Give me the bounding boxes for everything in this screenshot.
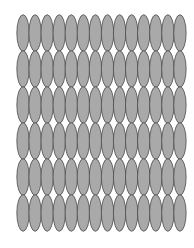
ellipse-shape [113, 123, 125, 160]
ellipse-shape [77, 195, 89, 232]
ellipse-shape [113, 195, 125, 232]
ellipse-shape [174, 195, 186, 232]
ellipse-shape [65, 195, 77, 232]
ellipse-shape [162, 87, 174, 124]
ellipse-shape [65, 87, 77, 124]
ellipse-shape [174, 51, 186, 88]
ellipse-shape [150, 195, 162, 232]
ellipse-shape [150, 87, 162, 124]
ellipse-shape [138, 87, 150, 124]
ellipse-shape [125, 15, 137, 52]
ellipse-shape [53, 15, 65, 52]
ellipse-shape [29, 51, 41, 88]
ellipse-shape [89, 159, 101, 196]
ellipse-shape [138, 195, 150, 232]
ellipse-shape [150, 123, 162, 160]
ellipse-shape [101, 15, 113, 52]
ellipse-shape [174, 159, 186, 196]
ellipse-shape [53, 51, 65, 88]
ellipse-shape [29, 15, 41, 52]
ellipse-shape [65, 123, 77, 160]
ellipse-shape [53, 123, 65, 160]
ellipse-shape [41, 51, 53, 88]
ellipse-shape [41, 159, 53, 196]
ellipse-shape [53, 87, 65, 124]
ellipse-shape [150, 51, 162, 88]
ellipse-shape [17, 195, 29, 232]
ellipse-shape [101, 159, 113, 196]
ellipse-shape [17, 15, 29, 52]
ellipse-shape [125, 51, 137, 88]
ellipse-shape [41, 15, 53, 52]
ellipse-shape [138, 51, 150, 88]
ellipse-shape [101, 195, 113, 232]
ellipse-shape [77, 87, 89, 124]
ellipse-shape [174, 123, 186, 160]
ellipse-shape [41, 195, 53, 232]
ellipse-shape [113, 159, 125, 196]
ellipse-shape [113, 87, 125, 124]
ellipse-shape [89, 87, 101, 124]
ellipse-shape [17, 123, 29, 160]
ellipse-shape [101, 87, 113, 124]
ellipse-shape [53, 195, 65, 232]
ellipse-shape [89, 51, 101, 88]
ellipse-shape [29, 87, 41, 124]
ellipse-shape [150, 15, 162, 52]
ellipse-shape [89, 15, 101, 52]
ellipse-shape [174, 15, 186, 52]
ellipse-shape [77, 123, 89, 160]
ellipse-shape [89, 123, 101, 160]
ellipse-shape [89, 195, 101, 232]
ellipse-shape [17, 87, 29, 124]
ellipse-shape [113, 51, 125, 88]
ellipse-shape [41, 123, 53, 160]
ellipse-shape [162, 195, 174, 232]
ellipse-shape [77, 15, 89, 52]
ellipse-shape [101, 123, 113, 160]
ellipse-shape [162, 123, 174, 160]
ellipse-shape [65, 159, 77, 196]
ellipse-shape [41, 87, 53, 124]
ellipse-shape [65, 51, 77, 88]
ellipse-shape [138, 15, 150, 52]
ellipse-shape [77, 51, 89, 88]
ellipse-shape [174, 87, 186, 124]
ellipse-shape [150, 159, 162, 196]
ellipse-shape [65, 15, 77, 52]
ellipse-shape [125, 159, 137, 196]
ellipse-shape [125, 195, 137, 232]
ellipse-shape [29, 195, 41, 232]
ellipse-shape [162, 15, 174, 52]
ellipse-shape [113, 15, 125, 52]
ellipse-shape [29, 123, 41, 160]
ellipse-grid [0, 0, 194, 248]
ellipse-shape [162, 159, 174, 196]
ellipse-shape [138, 123, 150, 160]
ellipse-shape [125, 87, 137, 124]
ellipse-shape [29, 159, 41, 196]
ellipse-shape [17, 159, 29, 196]
ellipse-shape [53, 159, 65, 196]
ellipse-shape [125, 123, 137, 160]
ellipse-shape [101, 51, 113, 88]
ellipse-shape [138, 159, 150, 196]
ellipse-shape [17, 51, 29, 88]
ellipse-shape [77, 159, 89, 196]
ellipse-shape [162, 51, 174, 88]
